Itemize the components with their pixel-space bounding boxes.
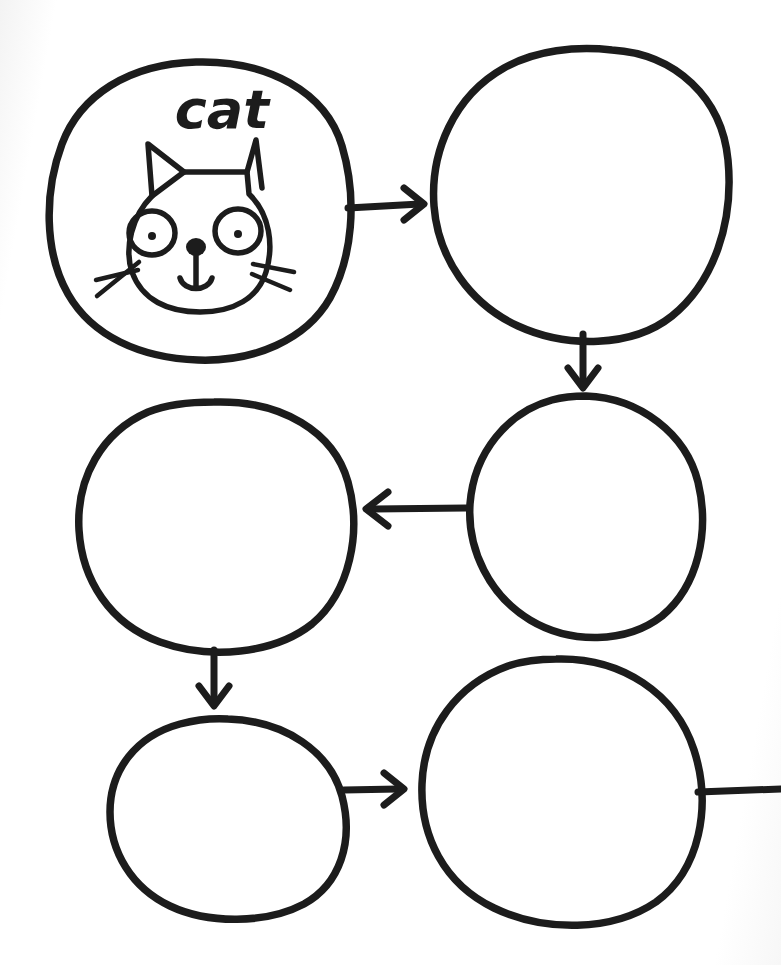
node-3-content-slot[interactable]	[489, 417, 679, 613]
arrow-cat-to-node2	[348, 188, 424, 220]
node-6[interactable]	[422, 659, 702, 925]
arrow-shaft	[344, 789, 398, 790]
node-cat-label: cat	[175, 78, 271, 141]
node-5-content-slot[interactable]	[128, 735, 324, 899]
worksheet-page: cat	[0, 0, 781, 965]
arrow-node4-to-node5	[199, 650, 229, 706]
right-whisker-upper-icon	[253, 264, 294, 272]
cat-face-drawing	[96, 140, 294, 312]
node-2-content-slot[interactable]	[460, 77, 700, 307]
node-4-content-slot[interactable]	[103, 423, 327, 633]
node-3[interactable]	[470, 396, 703, 638]
diagram-canvas: cat	[0, 0, 781, 965]
node-2[interactable]	[434, 49, 729, 342]
arrow-shaft	[374, 508, 466, 509]
arrow-node6-offpage-shaft	[698, 789, 781, 792]
node-5[interactable]	[110, 719, 346, 920]
right-pupil-icon	[234, 230, 242, 238]
arrow-shaft	[348, 204, 420, 208]
node-6-content-slot[interactable]	[444, 678, 680, 902]
arrow-node5-to-node6	[344, 773, 404, 805]
left-pupil-icon	[148, 232, 156, 240]
arrow-node3-to-node4	[366, 492, 466, 526]
node-4[interactable]	[79, 402, 354, 652]
node-cat[interactable]: cat	[49, 62, 351, 360]
